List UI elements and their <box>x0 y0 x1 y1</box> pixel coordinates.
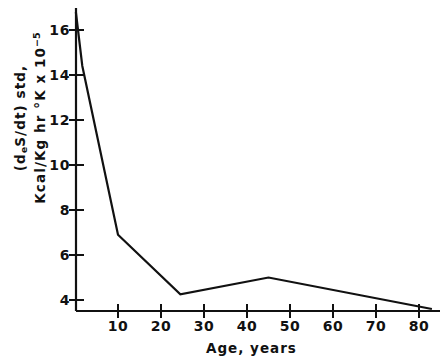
data-series-entropy-rate <box>76 12 432 309</box>
figure-canvas: (deS/dt) std, Kcal/Kg hr °K x 10−5 16 14… <box>0 0 440 364</box>
plot-area <box>0 0 440 364</box>
